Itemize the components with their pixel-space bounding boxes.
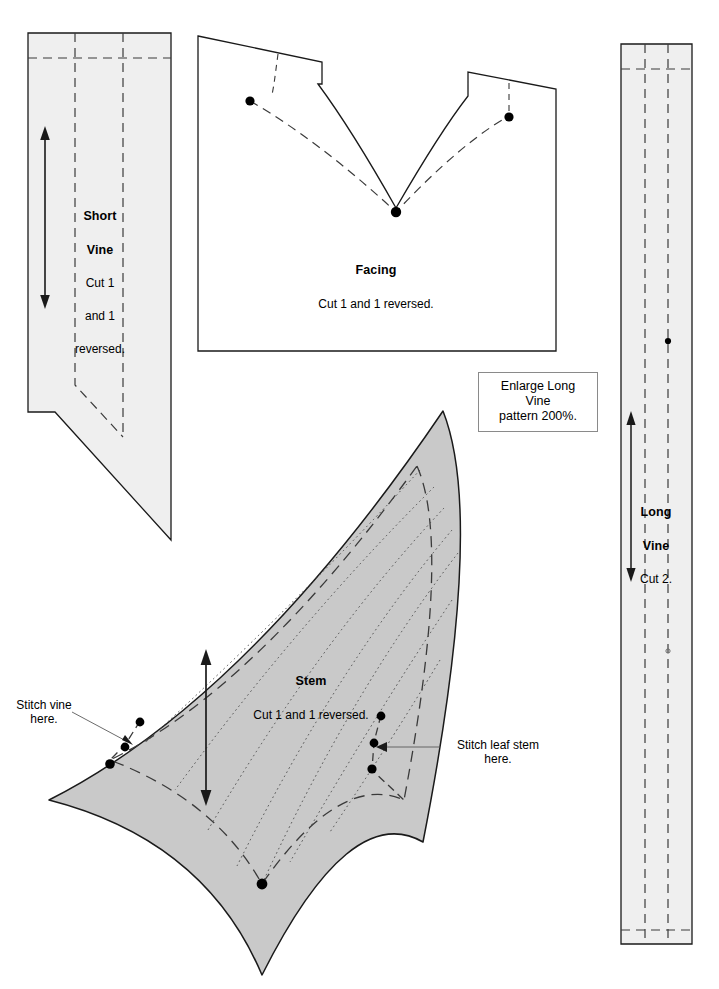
long-vine-dot: [665, 338, 671, 344]
short-vine-title-2: Vine: [50, 243, 150, 258]
callout-stitch-leaf-stem: Stitch leaf stem here.: [444, 738, 552, 767]
long-vine-title: Long: [613, 505, 699, 520]
callout-stitch-vine: Stitch vine here.: [4, 698, 84, 727]
short-vine-cut-2: and 1: [50, 309, 150, 323]
enlarge-note-line-2: pattern 200%.: [487, 409, 589, 424]
enlarge-note-box: Enlarge Long Vine pattern 200%.: [478, 372, 598, 432]
short-vine-title: Short: [50, 209, 150, 224]
stem-dot-bottom: [257, 879, 268, 890]
enlarge-note-line-1: Enlarge Long Vine: [487, 379, 589, 409]
facing-dot-right: [504, 112, 513, 121]
facing-dot-left: [245, 96, 254, 105]
facing-dot-center: [391, 207, 401, 217]
stem-dot-right-3: [367, 764, 376, 773]
long-vine-title-2: Vine: [613, 539, 699, 554]
short-vine-label: Short Vine Cut 1 and 1 reversed.: [50, 190, 150, 375]
facing-cut: Cut 1 and 1 reversed.: [276, 297, 476, 311]
stem-dot-left-1: [136, 718, 145, 727]
pattern-sheet: Short Vine Cut 1 and 1 reversed. Facing …: [0, 0, 719, 989]
facing-title: Facing: [276, 263, 476, 278]
stem-dot-left-2: [121, 743, 130, 752]
long-vine-label: Long Vine Cut 2.: [613, 486, 699, 605]
stem-title: Stem: [228, 674, 394, 689]
facing-label: Facing Cut 1 and 1 reversed.: [276, 244, 476, 330]
stem-dot-left-3: [105, 759, 115, 769]
stem-cut: Cut 1 and 1 reversed.: [228, 708, 394, 722]
pattern-drawing: [0, 0, 719, 989]
short-vine-cut-1: Cut 1: [50, 276, 150, 290]
long-vine-cut: Cut 2.: [613, 572, 699, 586]
stem-label: Stem Cut 1 and 1 reversed.: [228, 655, 394, 741]
short-vine-cut-3: reversed.: [50, 342, 150, 356]
